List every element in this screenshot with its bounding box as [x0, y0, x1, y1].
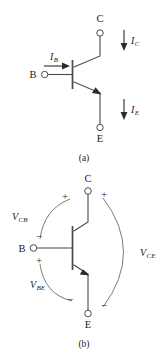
vbe-voltage-label: VBE [30, 279, 46, 292]
ib-current-label: IB [49, 51, 59, 64]
caption-b: (b) [78, 339, 89, 350]
vce-minus-sign: − [101, 299, 107, 311]
base-label-b: B [18, 243, 25, 254]
base-terminal-node-a [41, 71, 47, 77]
emitter-arrowhead-a [92, 87, 102, 94]
emitter-terminal-node-b [85, 310, 92, 317]
vbe-subscript: BE [37, 284, 46, 292]
vcb-voltage-label: VCB [12, 211, 28, 224]
transistor-figure: C B E IB IC [0, 0, 168, 360]
caption-a: (a) [79, 153, 90, 164]
emitter-wire-b [74, 265, 88, 310]
collector-terminal-node-b [85, 188, 92, 195]
base-terminal-node-b [30, 245, 37, 252]
ie-subscript: E [134, 109, 140, 117]
vce-plus-sign: + [101, 188, 107, 200]
base-label-a: B [29, 69, 36, 80]
ie-arrowhead [121, 112, 128, 120]
panel-a-group: C B E IB IC [29, 13, 139, 164]
vcb-minus-sign: − [36, 230, 42, 242]
vbe-plus-sign: + [36, 254, 42, 266]
emitter-label-a: E [97, 133, 103, 144]
ib-arrowhead [62, 63, 70, 70]
vce-arc [103, 198, 124, 307]
ic-arrowhead [121, 43, 128, 51]
vcb-plus-sign: + [62, 190, 68, 202]
panel-b-group: C B E + − VCB + − VBE [12, 173, 156, 350]
collector-wire-b [74, 195, 88, 232]
collector-label-b: C [84, 173, 91, 184]
vcb-arc [40, 199, 70, 239]
vcb-subscript: CB [19, 216, 29, 224]
collector-wire-a [74, 37, 100, 68]
emitter-terminal-node-a [97, 124, 103, 130]
vbe-minus-sign: − [67, 293, 73, 305]
vce-voltage-label: VCE [140, 247, 156, 260]
ic-subscript: C [135, 40, 140, 48]
ic-current-label: IC [130, 35, 140, 48]
emitter-label-b: E [85, 319, 91, 330]
collector-label-a: C [96, 13, 103, 24]
ib-subscript: B [54, 56, 59, 64]
vce-subscript: CE [147, 252, 157, 260]
circuit-diagram-svg: C B E IB IC [0, 0, 168, 360]
ie-current-label: IE [130, 104, 140, 117]
collector-terminal-node-a [97, 30, 103, 36]
